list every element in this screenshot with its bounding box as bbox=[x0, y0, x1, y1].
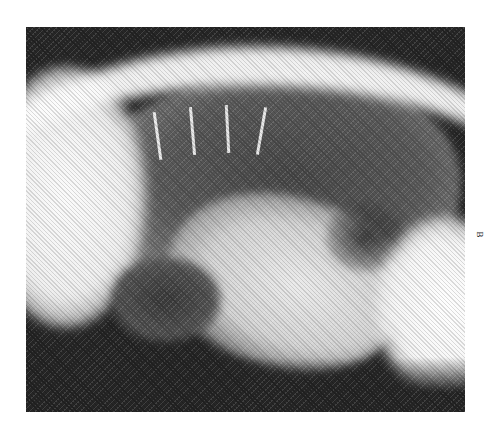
radiograph-image bbox=[26, 27, 465, 412]
film-grain bbox=[26, 27, 465, 412]
panel-label: B bbox=[475, 231, 484, 237]
